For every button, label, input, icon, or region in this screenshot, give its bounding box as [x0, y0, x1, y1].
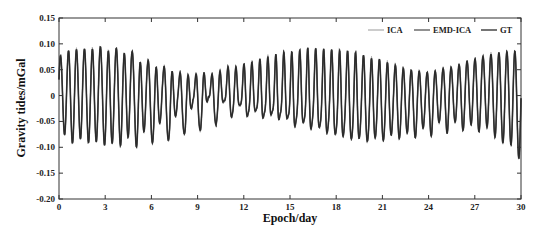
x-tick-label: 21	[378, 202, 388, 212]
legend-label: EMD-ICA	[433, 25, 472, 35]
legend-label: ICA	[387, 25, 403, 35]
y-axis-title: Gravity tides/mGal	[14, 58, 28, 158]
x-tick-label: 18	[332, 202, 342, 212]
x-tick-label: 0	[57, 202, 62, 212]
x-tick-label: 12	[239, 202, 249, 212]
legend-label: GT	[500, 25, 513, 35]
x-tick-label: 27	[470, 202, 480, 212]
legend: ICAEMD-ICAGT	[360, 23, 518, 37]
y-tick-label: 0	[51, 91, 56, 101]
y-tick-label: -0.10	[36, 142, 55, 152]
x-tick-label: 24	[424, 202, 434, 212]
y-tick-label: -0.05	[36, 116, 55, 126]
x-axis-title: Epoch/day	[263, 211, 318, 225]
x-tick-label: 9	[195, 202, 200, 212]
y-tick-label: -0.15	[36, 168, 55, 178]
y-tick-label: 0.10	[39, 39, 55, 49]
series-gt-line	[59, 47, 521, 158]
x-tick-label: 30	[517, 202, 527, 212]
x-tick-label: 6	[149, 202, 154, 212]
series-lines	[59, 46, 521, 159]
gravity-tides-chart: 036912151821242730 0.150.100.050-0.05-0.…	[0, 0, 539, 237]
x-tick-label: 3	[103, 202, 108, 212]
y-tick-label: 0.05	[39, 65, 55, 75]
y-tick-label: 0.15	[39, 13, 55, 23]
y-tick-label: -0.20	[36, 194, 55, 204]
